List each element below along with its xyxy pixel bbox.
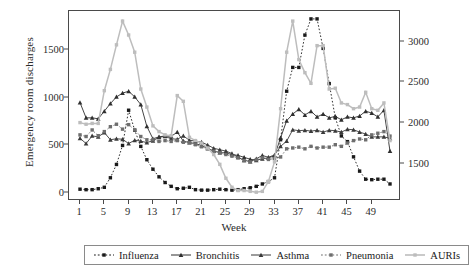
data-point [352, 139, 355, 142]
data-point [206, 188, 209, 191]
data-point [230, 186, 233, 189]
data-point [352, 155, 355, 158]
data-point [139, 145, 142, 148]
legend-label: AURIs [430, 250, 460, 261]
x-axis-tick-label: 33 [262, 206, 286, 217]
data-point [267, 158, 270, 161]
data-point [255, 185, 258, 188]
legend-item-asthma[interactable]: Asthma [250, 250, 309, 261]
legend-item-bronchitis[interactable]: Bronchitis [170, 250, 240, 261]
data-point [303, 71, 306, 74]
data-point [303, 33, 306, 36]
data-point [278, 136, 283, 140]
data-point [382, 130, 385, 133]
data-point [340, 101, 343, 104]
x-axis-tick-label: 21 [189, 206, 213, 217]
data-point [279, 107, 282, 110]
data-point [182, 141, 185, 144]
data-point [181, 134, 186, 138]
data-point [236, 156, 239, 159]
data-point [84, 188, 87, 191]
data-point [127, 33, 130, 36]
data-point [175, 130, 180, 134]
data-point [176, 94, 179, 97]
data-point [145, 158, 148, 161]
data-point [297, 145, 300, 148]
data-point [78, 133, 81, 136]
data-point [200, 188, 203, 191]
data-point [284, 139, 289, 143]
x-axis-tick-label: 17 [164, 206, 188, 217]
data-point [103, 186, 106, 189]
data-point [297, 58, 300, 61]
data-point [376, 178, 379, 181]
data-point [212, 153, 215, 156]
data-point [194, 188, 197, 191]
legend-item-influenza[interactable]: Influenza [93, 250, 159, 261]
data-point [145, 124, 150, 128]
data-point [151, 168, 154, 171]
data-point [151, 124, 154, 127]
series-line [80, 19, 390, 190]
x-axis-tick-label: 45 [334, 206, 358, 217]
data-point [340, 145, 343, 148]
data-point [285, 51, 288, 54]
data-point [279, 155, 282, 158]
data-point [273, 160, 276, 163]
square-marker [93, 250, 115, 260]
data-point [115, 123, 118, 126]
data-point [309, 17, 312, 20]
y-axis-title: Emergency room discharges [23, 17, 35, 187]
data-point [114, 95, 119, 99]
x-axis-tick-label: 5 [91, 206, 115, 217]
data-point [188, 141, 191, 144]
data-point [261, 182, 264, 185]
data-point [309, 145, 312, 148]
data-point [109, 125, 112, 128]
data-point [78, 100, 83, 104]
data-point [176, 187, 179, 190]
plot-area [68, 10, 400, 200]
data-point [194, 139, 197, 142]
data-point [334, 143, 337, 146]
x-axis-title: Week [68, 221, 400, 233]
data-point [224, 188, 227, 191]
data-point [242, 189, 245, 192]
data-point [352, 107, 355, 110]
data-point [291, 146, 294, 149]
data-point [376, 132, 379, 135]
data-point [90, 122, 93, 125]
data-point [218, 151, 221, 154]
data-point [115, 43, 118, 46]
data-point [321, 112, 326, 116]
data-point [358, 169, 361, 172]
data-point [97, 134, 100, 137]
legend-label: Bronchitis [196, 250, 240, 261]
legend-item-pneumonia[interactable]: Pneumonia [320, 250, 393, 261]
data-point [242, 159, 245, 162]
data-point [321, 145, 324, 148]
data-point [169, 140, 172, 143]
data-point [364, 138, 367, 141]
data-point [339, 117, 344, 121]
data-point [78, 136, 83, 140]
series-pneumonia [78, 123, 391, 164]
data-point [121, 127, 124, 130]
data-point [370, 178, 373, 181]
series-bronchitis [78, 89, 393, 162]
x-axis-tick-label: 29 [237, 206, 261, 217]
data-point [315, 146, 318, 149]
data-point [267, 180, 270, 183]
data-point [285, 147, 288, 150]
data-point [139, 87, 142, 90]
data-point [358, 105, 361, 108]
data-point [121, 19, 124, 22]
x-axis-tick-label: 37 [286, 206, 310, 217]
data-point [157, 175, 160, 178]
data-point [388, 149, 393, 153]
series-asthma [78, 127, 393, 164]
data-point [285, 90, 288, 93]
legend-item-auris[interactable]: AURIs [404, 250, 460, 261]
data-point [364, 178, 367, 181]
